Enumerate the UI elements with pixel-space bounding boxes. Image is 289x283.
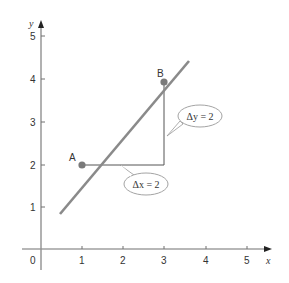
delta-x-label: Δx = 2 xyxy=(132,179,159,190)
y-tick-label: 2 xyxy=(30,160,36,171)
line-ab xyxy=(60,61,189,214)
point-b-label: B xyxy=(157,68,164,79)
y-tick-label: 3 xyxy=(30,117,36,128)
x-tick-label: 3 xyxy=(161,255,167,266)
slope-diagram: 0 1 2 3 4 5 x 1 2 3 4 5 y A B Δx = 2 Δy … xyxy=(0,0,289,283)
axes: 0 1 2 3 4 5 x 1 2 3 4 5 y xyxy=(22,18,272,270)
x-tick-label: 1 xyxy=(79,255,85,266)
point-a-label: A xyxy=(69,152,76,163)
slope-triangle xyxy=(82,82,164,165)
origin-label: 0 xyxy=(30,255,36,266)
delta-x-callout: Δx = 2 xyxy=(120,165,168,195)
x-tick-label: 2 xyxy=(120,255,126,266)
x-tick-label: 4 xyxy=(203,255,209,266)
delta-y-callout: Δy = 2 xyxy=(167,105,222,136)
x-axis-arrow-icon xyxy=(264,246,272,252)
x-axis-label: x xyxy=(265,255,271,266)
x-tick-label: 5 xyxy=(244,255,250,266)
delta-y-label: Δy = 2 xyxy=(186,111,213,122)
point-b xyxy=(160,78,167,85)
y-axis-label: y xyxy=(28,18,34,29)
y-tick-label: 1 xyxy=(30,202,36,213)
y-axis-arrow-icon xyxy=(38,20,44,28)
point-a xyxy=(78,161,85,168)
y-tick-label: 5 xyxy=(30,31,36,42)
y-tick-label: 4 xyxy=(30,74,36,85)
